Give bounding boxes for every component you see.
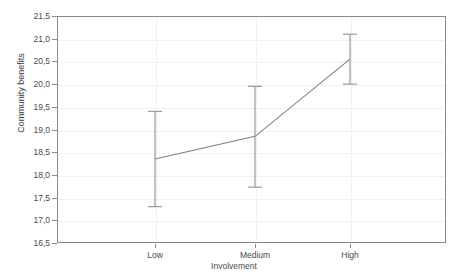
gridline xyxy=(351,17,352,242)
gridline xyxy=(58,40,445,41)
y-tick-label: 18,0 xyxy=(22,171,50,180)
gridline xyxy=(58,199,445,200)
x-tick-label: High xyxy=(341,250,358,260)
x-tick-mark xyxy=(155,244,156,248)
x-tick-mark xyxy=(255,244,256,248)
y-tick-label: 19,5 xyxy=(22,103,50,112)
y-tick-label: 17,0 xyxy=(22,216,50,225)
y-tick-label: 20,0 xyxy=(22,80,50,89)
gridline xyxy=(58,153,445,154)
y-tick-label: 19,0 xyxy=(22,126,50,135)
x-tick-label: Low xyxy=(147,250,163,260)
gridline xyxy=(58,85,445,86)
gridline xyxy=(58,108,445,109)
gridline xyxy=(58,62,445,63)
gridline xyxy=(58,221,445,222)
y-tick-label: 17,5 xyxy=(22,194,50,203)
x-tick-mark xyxy=(350,244,351,248)
y-tick-label: 21,5 xyxy=(22,12,50,21)
gridline xyxy=(58,131,445,132)
y-tick-label: 18,5 xyxy=(22,148,50,157)
y-tick-mark xyxy=(52,243,57,244)
y-tick-label: 21,0 xyxy=(22,35,50,44)
y-axis-title: Community benefits xyxy=(16,23,26,163)
gridline xyxy=(256,17,257,242)
x-tick-label: Medium xyxy=(240,250,270,260)
gridline xyxy=(156,17,157,242)
gridline xyxy=(58,176,445,177)
plot-area xyxy=(57,16,446,243)
error-bar-chart: Community benefits 21,521,020,520,019,51… xyxy=(0,0,468,276)
x-axis-title: Involvement xyxy=(0,261,468,271)
y-tick-label: 20,5 xyxy=(22,57,50,66)
y-tick-label: 16,5 xyxy=(22,239,50,248)
